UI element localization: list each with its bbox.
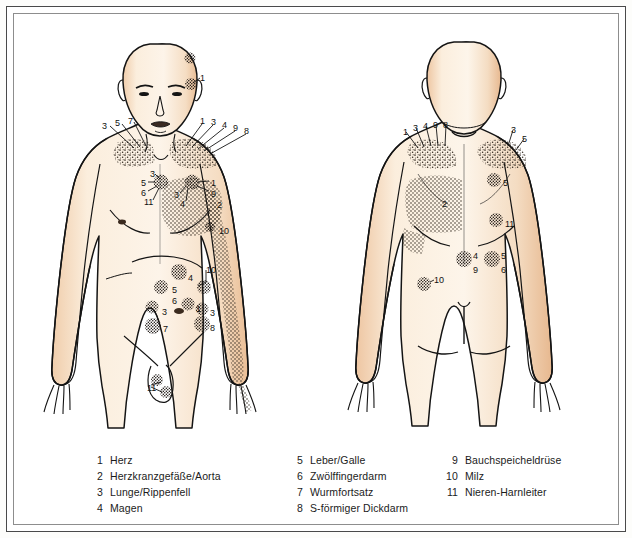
front-abd-5: 5 — [172, 286, 177, 295]
legend-entry: 5Leber/Galle — [283, 452, 408, 468]
back-chest-11: 11 — [505, 220, 514, 229]
legend-entry-number: 3 — [83, 484, 103, 500]
front-rshoulder-1: 1 — [200, 117, 205, 126]
back-figure — [348, 42, 560, 426]
legend-entry-label: Magen — [110, 500, 143, 516]
front-rclav-9: 9 — [211, 190, 216, 199]
front-left-shoulder-zone — [113, 139, 154, 167]
front-rclav-1: 1 — [211, 179, 216, 188]
front-navel — [174, 308, 184, 314]
front-abd-l3: 3 — [162, 308, 167, 317]
back-lshoulder-8: 8 — [443, 121, 448, 130]
illustration-page: 135713498356111934210456103137811 134983… — [0, 0, 632, 538]
front-abd-10: 10 — [206, 266, 216, 275]
back-lshoulder-1: 1 — [403, 128, 408, 137]
legend-entry-label: Lunge/Rippenfell — [110, 484, 190, 500]
front-lclav-3: 3 — [150, 170, 155, 179]
legend-entry: 9Bauchspeicheldrüse — [438, 452, 561, 468]
back-side-10: 10 — [434, 276, 444, 285]
front-abd-6: 6 — [172, 297, 177, 306]
legend-entry-number: 11 — [438, 484, 458, 500]
front-rshoulder-3: 3 — [211, 118, 216, 127]
legend-entry: 1Herz — [83, 452, 221, 468]
front-right-eye — [172, 92, 182, 96]
front-chest-2: 2 — [217, 201, 222, 210]
back-torso-zone — [405, 176, 462, 233]
front-left-hand — [44, 384, 70, 414]
legend-column-2: 5Leber/Galle6Zwölffingerdarm7Wurmfortsat… — [283, 452, 408, 516]
back-abd-4: 4 — [473, 252, 478, 261]
legend-entry-label: Milz — [465, 468, 484, 484]
front-left-nipple — [118, 220, 126, 225]
legend-entry-label: Zwölffingerdarm — [310, 468, 387, 484]
back-chest-2: 2 — [442, 200, 447, 209]
legend-entry-label: Herzkranzgefäße/Aorta — [110, 468, 221, 484]
legend-entry-number: 5 — [283, 452, 303, 468]
front-rshoulder-8: 8 — [244, 127, 249, 136]
front-lshoulder-5: 5 — [115, 119, 120, 128]
front-chest-10: 10 — [219, 227, 229, 236]
front-mid-4: 4 — [180, 200, 185, 209]
anatomical-figures — [14, 14, 618, 524]
front-abd-1: 1 — [196, 305, 201, 314]
front-groin-11: 11 — [147, 384, 156, 393]
legend-column-1: 1Herz2Herzkranzgefäße/Aorta3Lunge/Rippen… — [83, 452, 221, 516]
back-lshoulder-4: 4 — [423, 122, 428, 131]
legend-entry-number: 1 — [83, 452, 103, 468]
front-left-eye — [139, 92, 149, 96]
legend-entry: 11Nieren-Harnleiter — [438, 484, 561, 500]
front-rshoulder-9: 9 — [233, 124, 238, 133]
front-head-1: 1 — [200, 74, 205, 83]
anatomy-plate: 135713498356111934210456103137811 134983… — [14, 14, 618, 524]
legend-entry-number: 8 — [283, 500, 303, 516]
back-abd-5: 5 — [501, 252, 506, 261]
front-rshoulder-4: 4 — [222, 121, 227, 130]
legend-entry: 4Magen — [83, 500, 221, 516]
back-lshoulder-3: 3 — [413, 124, 418, 133]
legend-entry-number: 2 — [83, 468, 103, 484]
legend-entry: 2Herzkranzgefäße/Aorta — [83, 468, 221, 484]
legend: 1Herz2Herzkranzgefäße/Aorta3Lunge/Rippen… — [28, 452, 618, 524]
back-right-hand — [534, 382, 560, 412]
legend-entry: 8S-förmiger Dickdarm — [283, 500, 408, 516]
front-abd-4: 4 — [188, 274, 193, 283]
back-abd-9: 9 — [473, 266, 478, 275]
legend-entry-number: 4 — [83, 500, 103, 516]
legend-entry-number: 7 — [283, 484, 303, 500]
front-abd-8: 8 — [210, 324, 215, 333]
legend-entry-label: Nieren-Harnleiter — [465, 484, 547, 500]
back-head — [427, 42, 501, 134]
legend-entry: 6Zwölffingerdarm — [283, 468, 408, 484]
front-abd-r3: 3 — [210, 309, 215, 318]
legend-entry-label: S-förmiger Dickdarm — [310, 500, 408, 516]
legend-entry-number: 9 — [438, 452, 458, 468]
front-mouth — [151, 122, 170, 127]
legend-entry: 7Wurmfortsatz — [283, 484, 408, 500]
back-rshoulder-3: 3 — [511, 126, 516, 135]
back-chest-5: 5 — [503, 179, 508, 188]
back-abd-6: 6 — [501, 266, 506, 275]
legend-entry-label: Leber/Galle — [310, 452, 365, 468]
legend-entry-label: Herz — [110, 452, 133, 468]
front-lclav-11: 11 — [144, 198, 153, 207]
front-right-hand-zone — [238, 382, 252, 412]
back-rshoulder-5: 5 — [522, 135, 527, 144]
legend-entry-label: Wurmfortsatz — [310, 484, 373, 500]
legend-entry-label: Bauchspeicheldrüse — [465, 452, 561, 468]
front-lshoulder-3: 3 — [102, 122, 107, 131]
front-mid-3: 3 — [174, 191, 179, 200]
back-left-hand — [348, 382, 374, 412]
legend-entry: 10Milz — [438, 468, 561, 484]
front-lshoulder-7: 7 — [128, 117, 133, 126]
back-lshoulder-9: 9 — [433, 121, 438, 130]
front-lclav-5: 5 — [141, 179, 146, 188]
legend-entry: 3Lunge/Rippenfell — [83, 484, 221, 500]
legend-column-3: 9Bauchspeicheldrüse10Milz11Nieren-Harnle… — [438, 452, 561, 500]
front-abd-7: 7 — [163, 325, 168, 334]
legend-entry-number: 10 — [438, 468, 458, 484]
legend-entry-number: 6 — [283, 468, 303, 484]
front-figure — [44, 44, 256, 428]
